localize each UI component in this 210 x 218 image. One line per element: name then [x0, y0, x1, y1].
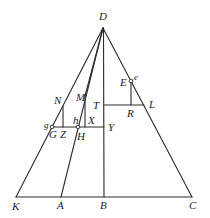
label-B: B — [100, 199, 107, 211]
label-A: A — [56, 199, 64, 211]
line-DC — [103, 28, 192, 197]
line-DK — [16, 28, 103, 197]
label-E: E — [119, 76, 127, 88]
label-H: H — [76, 130, 86, 142]
point-e-circle — [129, 79, 133, 83]
label-M: M — [75, 91, 86, 103]
label-R: R — [126, 107, 134, 119]
label-T: T — [93, 99, 100, 111]
label-N: N — [53, 94, 62, 106]
label-K: K — [11, 200, 20, 212]
label-e: e — [134, 72, 138, 82]
label-X: X — [87, 114, 96, 126]
label-D: D — [98, 10, 107, 22]
label-Z: Z — [60, 128, 67, 140]
label-C: C — [189, 199, 197, 211]
line-DB — [104, 28, 105, 197]
label-h: h — [73, 114, 79, 126]
label-G: G — [49, 128, 57, 140]
geometry-diagram: D E e N M T L R h X g G Z H Y K A B C — [0, 0, 210, 218]
label-Y: Y — [108, 121, 116, 133]
line-DM — [85, 28, 103, 96]
label-L: L — [148, 98, 155, 110]
